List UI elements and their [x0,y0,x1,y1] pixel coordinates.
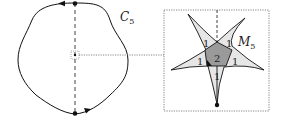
mult-top-right: 1 [226,38,232,49]
region-label: M5 [237,35,255,51]
top-point-icon [73,1,78,6]
mult-bottom: 1 [214,71,220,82]
arrow-left-icon [58,1,65,6]
mult-center: 2 [214,53,220,64]
mult-left: 1 [197,56,203,67]
curve-label: C5 [120,10,134,26]
mult-right: 1 [232,56,238,67]
bottom-point-icon [73,111,78,116]
star-bottom-point-icon [215,103,219,107]
curve-c5 [18,1,128,116]
diagram-canvas: C5 1 1 1 1 2 1 M5 [0,0,281,126]
mult-top-left: 1 [203,38,209,49]
arrow-right-icon [84,108,91,114]
